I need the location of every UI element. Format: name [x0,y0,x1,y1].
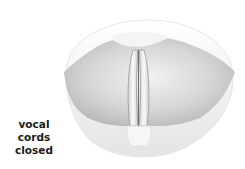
label-line-2: closed [4,144,64,157]
vocal-cords-label: vocal cords closed [4,118,64,157]
arytenoid-region [127,126,151,146]
label-line-1: vocal cords [4,118,64,144]
